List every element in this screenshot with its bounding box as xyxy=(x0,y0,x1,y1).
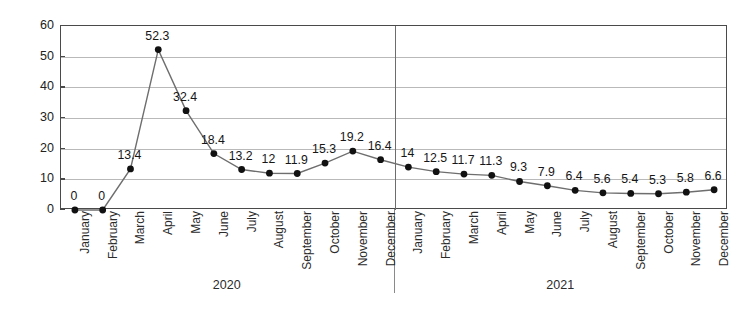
x-axis-tick-label: November xyxy=(357,211,369,266)
y-axis-tick-label: 0 xyxy=(24,203,54,216)
data-point-label: 11.7 xyxy=(451,154,474,166)
data-point-label: 5.6 xyxy=(593,173,610,185)
x-axis-tick-label: March xyxy=(134,211,146,244)
x-axis-tick-label: February xyxy=(107,211,119,259)
x-axis-group-label: 2020 xyxy=(213,278,241,292)
series-polyline xyxy=(75,50,714,210)
data-point-marker xyxy=(210,150,217,157)
y-axis-tick-mark xyxy=(60,25,65,26)
x-axis-category-labels: JanuaryFebruaryMarchAprilMayJuneJulyAugu… xyxy=(60,211,727,281)
data-point-label: 12.5 xyxy=(423,151,447,163)
x-axis-tick-label: May xyxy=(190,211,202,234)
data-point-marker xyxy=(183,107,190,114)
data-point-label: 13.2 xyxy=(229,149,253,161)
data-point-marker xyxy=(572,187,579,194)
y-axis-tick-label: 20 xyxy=(24,141,54,154)
data-point-marker xyxy=(516,178,523,185)
x-axis-tick-label: October xyxy=(663,211,675,254)
y-axis-tick-label: 30 xyxy=(24,111,54,124)
data-point-marker xyxy=(711,186,718,193)
y-axis-tick-mark xyxy=(60,178,65,179)
data-point-label: 11.3 xyxy=(479,155,502,167)
data-point-marker xyxy=(544,182,551,189)
data-point-marker xyxy=(405,164,412,171)
x-axis-tick-label: June xyxy=(218,211,230,237)
y-axis-tick-mark xyxy=(60,86,65,87)
data-point-label: 0 xyxy=(98,190,105,202)
x-axis-tick-label: July xyxy=(246,211,258,232)
data-point-label: 9.3 xyxy=(510,161,527,173)
x-axis-group-label: 2021 xyxy=(546,278,574,292)
chart-figure: Percentage 0102030405060 0013.452.332.41… xyxy=(0,0,750,315)
data-point-label: 6.6 xyxy=(705,169,722,181)
data-point-label: 18.4 xyxy=(201,133,225,145)
x-axis-tick-label: June xyxy=(551,211,563,237)
x-axis-tick-label: January xyxy=(79,211,91,254)
data-point-marker xyxy=(655,190,662,197)
data-point-marker xyxy=(238,166,245,173)
x-axis-tick-label: December xyxy=(718,211,730,266)
y-axis-tick-label: 10 xyxy=(24,172,54,185)
y-axis-tick-labels: 0102030405060 xyxy=(22,25,54,209)
x-axis-tick-label: December xyxy=(385,211,397,266)
x-axis-tick-label: August xyxy=(273,211,285,248)
data-point-label: 16.4 xyxy=(368,139,392,151)
data-point-marker xyxy=(266,170,273,177)
y-axis-tick-mark xyxy=(60,209,65,210)
x-axis-tick-label: August xyxy=(607,211,619,248)
data-point-marker xyxy=(600,189,607,196)
data-point-label: 12 xyxy=(262,153,276,165)
data-point-marker xyxy=(461,171,468,178)
data-point-marker xyxy=(127,166,134,173)
data-point-label: 5.8 xyxy=(677,172,694,184)
y-axis-tick-label: 60 xyxy=(24,19,54,32)
x-axis-tick-label: September xyxy=(635,211,647,270)
data-point-label: 0 xyxy=(70,190,77,202)
data-point-label: 32.4 xyxy=(173,90,197,102)
data-point-label: 7.9 xyxy=(538,165,555,177)
x-axis-tick-label: March xyxy=(468,211,480,244)
x-axis-tick-label: September xyxy=(301,211,313,270)
x-axis-tick-label: April xyxy=(162,211,174,235)
x-axis-tick-label: May xyxy=(524,211,536,234)
data-point-marker xyxy=(683,189,690,196)
data-point-label: 13.4 xyxy=(118,149,142,161)
data-point-label: 19.2 xyxy=(340,131,364,143)
x-axis-tick-label: November xyxy=(690,211,702,266)
data-point-label: 5.4 xyxy=(621,173,638,185)
data-point-marker xyxy=(488,172,495,179)
data-point-marker xyxy=(155,46,162,53)
data-point-label: 5.3 xyxy=(649,173,666,185)
x-axis-tick-label: January xyxy=(412,211,424,254)
y-axis-tick-mark xyxy=(60,56,65,57)
x-axis-tick-label: February xyxy=(440,211,452,259)
data-point-label: 6.4 xyxy=(566,170,583,182)
data-point-label: 15.3 xyxy=(312,143,336,155)
data-point-marker xyxy=(433,168,440,175)
data-point-label: 52.3 xyxy=(145,29,169,41)
y-axis-tick-label: 50 xyxy=(24,49,54,62)
data-point-label: 14 xyxy=(401,147,415,159)
data-point-marker xyxy=(377,156,384,163)
y-axis-tick-mark xyxy=(60,148,65,149)
x-axis-tick-label: April xyxy=(496,211,508,235)
x-axis-tick-label: July xyxy=(579,211,591,232)
data-point-marker xyxy=(627,190,634,197)
data-point-marker xyxy=(294,170,301,177)
data-point-marker xyxy=(322,160,329,167)
x-axis-tick-label: October xyxy=(329,211,341,254)
data-point-label: 11.9 xyxy=(285,153,308,165)
y-axis-tick-mark xyxy=(60,117,65,118)
y-axis-tick-label: 40 xyxy=(24,80,54,93)
data-point-marker xyxy=(349,148,356,155)
